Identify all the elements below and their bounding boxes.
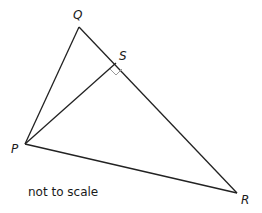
not-to-scale-note: not to scale [28,186,98,198]
vertex-label-s: S [119,50,127,62]
vertex-label-r: R [241,194,249,206]
triangle-diagram: Q S P R not to scale [0,0,262,213]
segment-ps [25,63,116,144]
segment-pq [25,27,79,144]
vertex-label-q: Q [73,9,82,21]
triangle-figure [0,0,262,213]
vertex-label-p: P [11,143,18,155]
segment-qr [79,27,237,193]
